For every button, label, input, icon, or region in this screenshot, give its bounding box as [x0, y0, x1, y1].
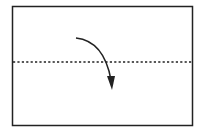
- paper-sheet: [13, 7, 193, 126]
- fold-diagram: [0, 0, 199, 133]
